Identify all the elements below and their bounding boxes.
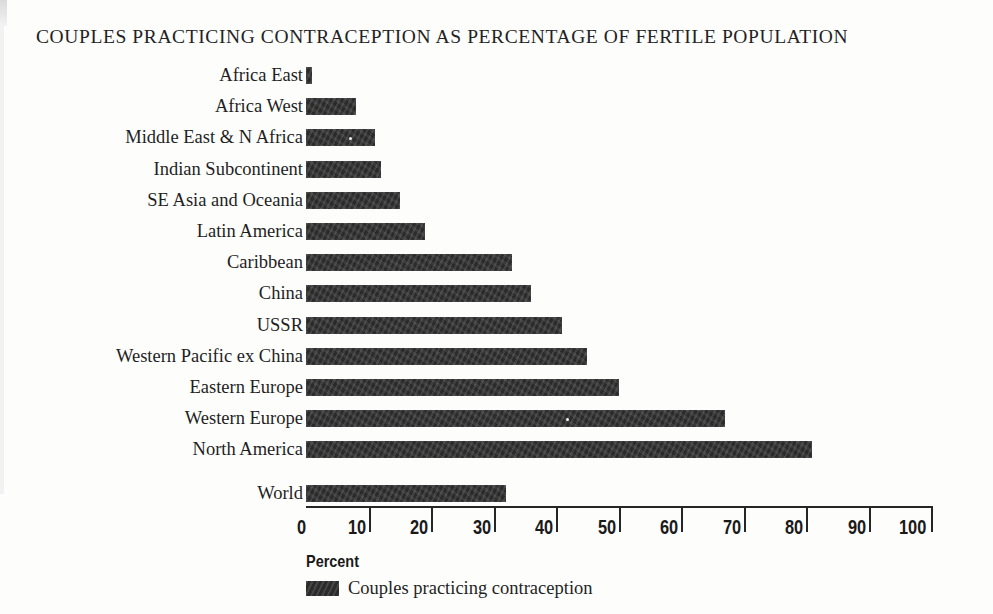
x-axis: 0102030405060708090100 (306, 506, 931, 552)
x-axis-tick (806, 506, 808, 532)
bar-row: Latin America (0, 218, 993, 244)
category-label: Western Pacific ex China (0, 343, 303, 369)
bar (306, 317, 562, 334)
x-axis-tick-label: 40 (535, 516, 553, 537)
bar (306, 441, 812, 458)
x-axis-tick-label: 30 (473, 516, 491, 537)
bar (306, 254, 512, 271)
x-axis-title: Percent (306, 552, 359, 572)
bar (306, 98, 356, 115)
scanned-page-background: COUPLES PRACTICING CONTRACEPTION AS PERC… (0, 0, 993, 614)
bar-row: Indian Subcontinent (0, 156, 993, 182)
x-axis-tick-label: 20 (410, 516, 428, 537)
bar (306, 67, 312, 84)
bar-row: Africa West (0, 93, 993, 119)
x-axis-tick (619, 506, 621, 532)
x-axis-tick-label: 80 (785, 516, 803, 537)
bar (306, 348, 587, 365)
x-axis-tick (369, 506, 371, 532)
category-label: Latin America (0, 218, 303, 244)
x-axis-tick-label: 0 (297, 516, 306, 537)
x-axis-tick (431, 506, 433, 532)
bar (306, 410, 725, 427)
x-axis-tick-label: 100 (899, 516, 926, 537)
x-axis-tick-label: 90 (848, 516, 866, 537)
x-axis-tick-label: 60 (660, 516, 678, 537)
bar-row: Africa East (0, 62, 993, 88)
legend-label: Couples practicing contraception (348, 578, 593, 599)
x-axis-tick (494, 506, 496, 532)
x-axis-tick (931, 506, 933, 532)
bar-row: Eastern Europe (0, 374, 993, 400)
x-axis-tick (744, 506, 746, 532)
bar-row: Western Pacific ex China (0, 343, 993, 369)
bar (306, 161, 381, 178)
category-label: North America (0, 436, 303, 462)
bar-row: USSR (0, 312, 993, 338)
world-summary-row: World (0, 480, 993, 506)
bar-row: Middle East & N Africa (0, 124, 993, 150)
bar-world (306, 485, 506, 502)
bar-row: North America (0, 436, 993, 462)
bar-row: China (0, 280, 993, 306)
bar (306, 192, 400, 209)
x-axis-tick-label: 50 (598, 516, 616, 537)
category-label: USSR (0, 312, 303, 338)
bar-row: SE Asia and Oceania (0, 187, 993, 213)
x-axis-tick (869, 506, 871, 532)
bar (306, 223, 425, 240)
x-axis-tick (556, 506, 558, 532)
category-label: Caribbean (0, 249, 303, 275)
legend-swatch-icon (306, 581, 339, 596)
category-label: Eastern Europe (0, 374, 303, 400)
category-label: Africa West (0, 93, 303, 119)
category-label: Africa East (0, 62, 303, 88)
chart-legend: Couples practicing contraception (306, 578, 593, 599)
x-axis-tick (681, 506, 683, 532)
category-label: Western Europe (0, 405, 303, 431)
bar (306, 285, 531, 302)
bar (306, 129, 375, 146)
bar-row: Caribbean (0, 249, 993, 275)
category-label: SE Asia and Oceania (0, 187, 303, 213)
category-label: China (0, 280, 303, 306)
category-label: Middle East & N Africa (0, 124, 303, 150)
bar (306, 379, 619, 396)
x-axis-tick-label: 10 (348, 516, 366, 537)
bar-row: Western Europe (0, 405, 993, 431)
x-axis-tick-label: 70 (723, 516, 741, 537)
category-label: Indian Subcontinent (0, 156, 303, 182)
category-label-world: World (0, 480, 303, 506)
